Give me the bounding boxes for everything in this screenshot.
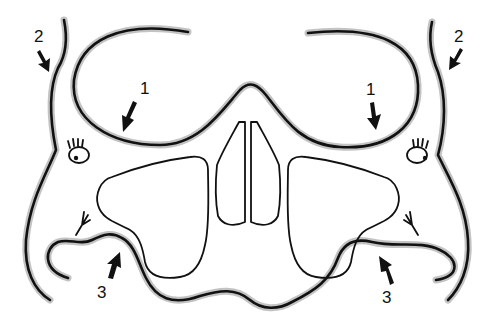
arrow-3-left-icon xyxy=(107,252,121,279)
arrow-1-right-icon xyxy=(367,102,381,130)
label-3-left: 3 xyxy=(97,283,106,302)
outline-layer xyxy=(26,20,469,308)
arrow-2-right-icon xyxy=(449,48,463,70)
halo-layer xyxy=(26,20,469,308)
right-nasal-cavity xyxy=(251,122,280,225)
diagram-svg: 1 1 2 2 3 3 xyxy=(0,0,496,329)
left-nasal-cavity xyxy=(216,122,245,225)
left-ostium-mark xyxy=(76,212,90,235)
label-3-right: 3 xyxy=(382,288,391,307)
left-eye-icon xyxy=(68,139,89,163)
right-eye-icon xyxy=(407,139,428,163)
label-1-right: 1 xyxy=(366,80,375,99)
arrow-2-left-icon xyxy=(37,50,50,72)
label-2-right: 2 xyxy=(454,27,463,46)
sinus-diagram: 1 1 2 2 3 3 xyxy=(0,0,496,329)
arrow-3-right-icon xyxy=(379,256,394,285)
arrow-1-left-icon xyxy=(122,101,137,132)
label-2-left: 2 xyxy=(34,27,43,46)
right-ostium-mark xyxy=(404,212,418,235)
label-1-left: 1 xyxy=(140,79,149,98)
